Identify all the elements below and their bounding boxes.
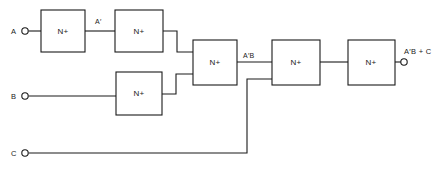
wire-gate2-to-and-upper <box>163 31 193 52</box>
wire-gateb-to-and-lower <box>162 74 193 94</box>
gate-b-inverter-label: N+ <box>133 89 144 98</box>
gate-a-inverter-label: N+ <box>57 27 68 36</box>
wire-label-a-not: A′ <box>95 18 102 25</box>
input-c-terminal-icon[interactable] <box>22 150 28 156</box>
output-terminal-icon[interactable] <box>401 59 407 65</box>
output-label: A′B + C <box>404 47 432 56</box>
input-a-terminal-icon[interactable] <box>22 28 28 34</box>
input-b-label: B <box>11 92 16 101</box>
input-b-terminal-icon[interactable] <box>22 93 28 99</box>
gate-output-label: N+ <box>365 58 376 67</box>
wire-label-a-not-b: A′B <box>243 52 255 59</box>
input-a-label: A <box>11 27 16 36</box>
input-c-label: C <box>11 149 17 158</box>
gate-and-ab-label: N+ <box>209 58 220 67</box>
circuit-svg: N+ N+ N+ N+ N+ N+ A B C A′B + C A′ A′B <box>0 0 444 173</box>
gate-a-second-label: N+ <box>133 27 144 36</box>
circuit-diagram-canvas: N+ N+ N+ N+ N+ N+ A B C A′B + C A′ A′B <box>0 0 444 173</box>
gate-or-c-label: N+ <box>290 58 301 67</box>
